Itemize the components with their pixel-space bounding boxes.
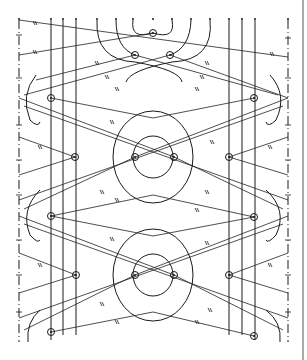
passive-threads bbox=[51, 20, 255, 340]
ring-motif-lower bbox=[113, 229, 193, 321]
pinholes bbox=[48, 30, 258, 340]
ring-motif-upper bbox=[113, 111, 193, 203]
lace-pricking-diagram bbox=[0, 0, 307, 360]
diagram-canvas bbox=[0, 0, 307, 360]
top-pin-row bbox=[18, 18, 289, 20]
edge-lines bbox=[19, 20, 288, 342]
